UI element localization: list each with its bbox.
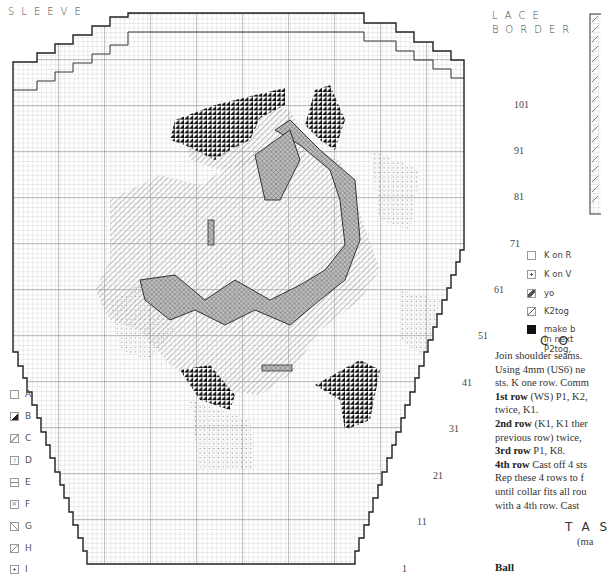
tassel-heading: TAS [565, 520, 612, 534]
lace-key-k-on-ws: K on V [527, 269, 612, 279]
instruction-line: sts. K one row. Comm [495, 376, 612, 390]
blank-square-icon [10, 390, 19, 399]
question-square-icon: ? [10, 456, 19, 465]
blank-square-icon [527, 251, 536, 260]
collar-heading: CO [540, 334, 578, 348]
slash-square-icon [527, 307, 536, 316]
dash-square-icon [10, 478, 19, 487]
row-number-51: 51 [478, 330, 488, 341]
row-number-71: 71 [510, 238, 520, 249]
half-filled-square-icon [10, 412, 19, 421]
key-item-h: H [10, 543, 32, 553]
key-item-f: × F [10, 499, 30, 509]
key-item-b: B [10, 411, 31, 421]
instruction-line: 3rd row P1, K8. [495, 444, 612, 458]
row-number-31: 31 [449, 423, 459, 434]
collar-instructions: Join shoulder seams. Using 4mm (US6) ne … [495, 349, 612, 512]
row-number-81: 81 [514, 191, 524, 202]
lace-key-k2tog: K2tog [527, 306, 612, 316]
instruction-line: until collar fits all rou [495, 485, 612, 499]
row-number-61: 61 [494, 284, 504, 295]
tassel-subnote: (ma [577, 536, 593, 547]
key-item-d: ? D [10, 455, 32, 465]
key-item-a: A [10, 389, 31, 399]
row-number-101: 101 [514, 99, 529, 110]
instruction-line: 1st row (WS) P1, K2, [495, 390, 612, 404]
row-number-91: 91 [514, 145, 524, 156]
instruction-line: Join shoulder seams. [495, 349, 612, 363]
key-item-e: E [10, 477, 31, 487]
row-number-41: 41 [462, 377, 472, 388]
dot-square-icon [10, 565, 19, 574]
key-item-i: I [10, 564, 28, 574]
dot-square-icon [527, 270, 536, 279]
instruction-line: 2nd row (K1, K1 ther [495, 417, 612, 431]
yo-square-icon [527, 289, 536, 298]
row-number-11: 11 [417, 516, 427, 527]
key-item-c: C [10, 433, 31, 443]
cross-square-icon: × [10, 500, 19, 509]
filled-square-icon [527, 325, 536, 334]
instruction-line: Using 4mm (US6) ne [495, 363, 612, 377]
key-item-g: G [10, 521, 32, 531]
row-number-21: 21 [433, 470, 443, 481]
instruction-line: 4th row Cast off 4 sts [495, 458, 612, 472]
instruction-line: Rep these 4 rows to f [495, 471, 612, 485]
instruction-line: previous row) twice, [495, 431, 612, 445]
dotted-diagonal-square-icon [10, 434, 19, 443]
row-number-1: 1 [402, 563, 407, 574]
lace-key-yo: yo [527, 288, 612, 298]
lace-key-k-on-rs: K on R [527, 250, 612, 260]
slash-square-icon [10, 544, 19, 553]
backslash-square-icon [10, 522, 19, 531]
ball-heading: Ball [495, 561, 514, 573]
instruction-line: twice, K1. [495, 403, 612, 417]
instruction-line: with a 4th row. Cast [495, 499, 612, 513]
